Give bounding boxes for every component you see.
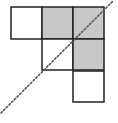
- grid-diagram: [0, 0, 118, 123]
- grid-cell-r1c1: [42, 39, 73, 70]
- grid-cell-r1c2-shaded: [73, 39, 104, 70]
- grid-cell-r0c2-shaded: [73, 7, 104, 39]
- grid-cell-r2c2: [73, 71, 104, 102]
- grid-cell-r0c1-shaded: [42, 7, 73, 39]
- grid-cell-r0c0: [11, 7, 42, 39]
